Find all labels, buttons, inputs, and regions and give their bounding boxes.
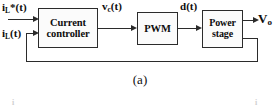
block-current-controller: Current controller: [38, 8, 98, 48]
block-current-controller-line1: Current: [50, 17, 86, 28]
block-power-stage: Power stage: [202, 10, 243, 48]
signal-label-control-voltage: vc(t): [102, 1, 122, 12]
signal-label-output-voltage: Vo: [258, 12, 272, 25]
arrowhead-output-voltage: [253, 17, 259, 23]
signal-label-current-reference: iL*(t): [2, 2, 27, 13]
wire-current-reference-in: [8, 19, 36, 20]
wire-pwm-to-power-stage: [178, 28, 196, 29]
signal-label-current-feedback: iL(t): [2, 28, 21, 39]
block-pwm: PWM: [137, 12, 178, 45]
wire-feedback-tap: [243, 38, 258, 39]
next-figure-remnant-right: i: [255, 99, 257, 106]
wire-feedback-bottom: [26, 61, 258, 62]
signal-label-duty-cycle: d(t): [180, 1, 197, 12]
wire-feedback-right-riser: [257, 38, 258, 62]
block-current-controller-line2: controller: [46, 28, 89, 39]
next-figure-remnant-left: i: [12, 99, 14, 106]
block-diagram-figure: iL*(t) iL(t) vc(t) d(t) Vo Current contr…: [0, 0, 280, 106]
figure-caption: (a): [0, 72, 280, 88]
block-power-stage-line2: stage: [212, 29, 233, 40]
block-pwm-line1: PWM: [144, 23, 171, 34]
wire-controller-to-pwm: [98, 28, 131, 29]
wire-feedback-left-riser: [26, 33, 27, 62]
